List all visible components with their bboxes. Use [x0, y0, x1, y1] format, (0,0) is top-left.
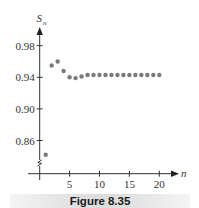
y-axis-arrow-icon: [37, 27, 43, 35]
data-points: [43, 59, 161, 157]
y-ticks: 0.860.900.940.98: [15, 40, 42, 147]
data-point: [109, 73, 113, 77]
y-axis-label: S: [37, 12, 43, 24]
data-point: [43, 153, 47, 157]
x-tick-label: 5: [67, 178, 73, 190]
data-point: [151, 73, 155, 77]
data-point: [157, 73, 161, 77]
x-axis-arrow-icon: [171, 171, 179, 177]
y-tick-label: 0.98: [15, 40, 35, 52]
data-point: [139, 73, 143, 77]
data-point: [121, 73, 125, 77]
data-point: [115, 73, 119, 77]
x-tick-label: 20: [154, 178, 166, 190]
y-axis-label-subscript: n: [43, 19, 47, 27]
data-point: [61, 69, 65, 73]
data-point: [103, 73, 107, 77]
data-point: [67, 75, 71, 79]
data-point: [97, 73, 101, 77]
y-tick-label: 0.86: [15, 135, 35, 147]
figure-caption: Figure 8.35: [10, 194, 190, 208]
data-point: [49, 63, 53, 67]
data-point: [55, 59, 59, 63]
data-point: [145, 73, 149, 77]
y-tick-label: 0.90: [15, 103, 35, 115]
data-point: [85, 73, 89, 77]
x-tick-label: 15: [124, 178, 136, 190]
data-point: [127, 73, 131, 77]
data-point: [133, 73, 137, 77]
data-point: [79, 74, 83, 78]
figure-caption-bar: Figure 8.35: [10, 194, 190, 208]
data-point: [73, 76, 77, 80]
axes: [28, 27, 179, 180]
chart: 0.860.900.940.98 5101520 S n n: [0, 0, 199, 208]
x-tick-label: 10: [94, 178, 106, 190]
y-tick-label: 0.94: [15, 71, 35, 83]
x-axis-label: n: [181, 167, 187, 179]
data-point: [91, 73, 95, 77]
